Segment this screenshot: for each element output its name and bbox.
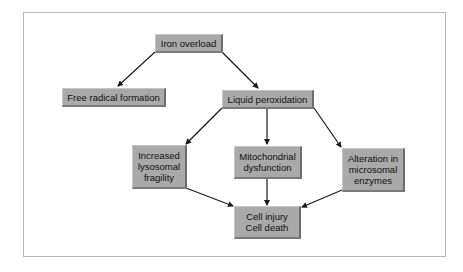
node-free-radical-formation: Free radical formation [62, 88, 166, 107]
arrow-lysosomal-to-cell-injury [186, 188, 233, 206]
node-liquid-peroxidation: Liquid peroxidation [222, 90, 314, 109]
arrow-peroxidation-to-microsomal [314, 108, 341, 147]
arrow-iron-to-free-radical [118, 52, 155, 86]
node-mitochondrial-dysfunction: Mitochondrial dysfunction [234, 146, 302, 179]
arrows-layer [0, 0, 463, 272]
node-alteration-microsomal-enzymes: Alteration in microsomal enzymes [342, 148, 405, 192]
arrow-microsomal-to-cell-injury [302, 190, 342, 207]
node-increased-lysosomal-fragility: Increased lysosomal fragility [132, 145, 187, 189]
arrow-iron-to-peroxidation [222, 52, 258, 88]
node-iron-overload: Iron overload [155, 34, 223, 53]
node-cell-injury-cell-death: Cell injury Cell death [234, 206, 301, 239]
arrow-peroxidation-to-lysosomal [186, 108, 222, 144]
